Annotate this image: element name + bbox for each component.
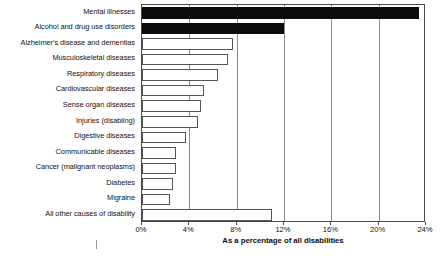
bar bbox=[142, 194, 170, 206]
bar bbox=[142, 85, 204, 97]
x-tick-label: 20% bbox=[370, 225, 385, 234]
x-tick-label: 16% bbox=[323, 225, 338, 234]
category-label: Alcohol and drug use disorders bbox=[35, 23, 135, 31]
category-label: Sense organ diseases bbox=[63, 101, 135, 109]
page-margin-mark bbox=[96, 240, 97, 249]
bar bbox=[142, 163, 176, 175]
bar bbox=[142, 209, 272, 221]
category-label: Mental illnesses bbox=[83, 8, 135, 16]
bar bbox=[142, 116, 198, 128]
gridline-8pct bbox=[237, 5, 238, 221]
bar bbox=[142, 147, 176, 159]
bar bbox=[142, 69, 218, 81]
category-label: Digestive diseases bbox=[74, 132, 135, 140]
bar bbox=[142, 178, 173, 190]
x-tick-label: 8% bbox=[230, 225, 241, 234]
bar bbox=[142, 38, 233, 50]
category-label: Musculoskeletal diseases bbox=[52, 54, 135, 62]
category-label: Migraine bbox=[107, 194, 135, 202]
gridline-20pct bbox=[379, 5, 380, 221]
bar bbox=[142, 100, 201, 112]
category-label: Alzheimer's disease and dementias bbox=[21, 39, 135, 47]
x-tick-label: 0% bbox=[136, 225, 147, 234]
gridline-16pct bbox=[331, 5, 332, 221]
category-label-column: Mental illnessesAlcohol and drug use dis… bbox=[0, 4, 138, 222]
bar bbox=[142, 23, 284, 35]
x-tick-label: 24% bbox=[417, 225, 432, 234]
category-label: Diabetes bbox=[106, 179, 135, 187]
bar bbox=[142, 132, 186, 144]
category-label: Cancer (malignant neoplasms) bbox=[36, 163, 135, 171]
category-label: Communicable diseases bbox=[56, 148, 135, 156]
disability-causes-bar-chart: Mental illnessesAlcohol and drug use dis… bbox=[0, 0, 446, 256]
x-axis-tick-group: 0%4%8%12%16%20%24% bbox=[141, 222, 425, 236]
bar bbox=[142, 7, 419, 19]
category-label: All other causes of disability bbox=[45, 210, 135, 218]
category-label: Injuries (disabling) bbox=[76, 117, 135, 125]
category-label: Cardiovascular diseases bbox=[56, 85, 135, 93]
x-tick-label: 12% bbox=[275, 225, 290, 234]
plot-area bbox=[141, 4, 425, 222]
x-tick-label: 4% bbox=[183, 225, 194, 234]
x-axis-title: As a percentage of all disabilities bbox=[141, 236, 425, 245]
bar bbox=[142, 54, 228, 66]
gridline-12pct bbox=[284, 5, 285, 221]
category-label: Respiratory diseases bbox=[67, 70, 135, 78]
